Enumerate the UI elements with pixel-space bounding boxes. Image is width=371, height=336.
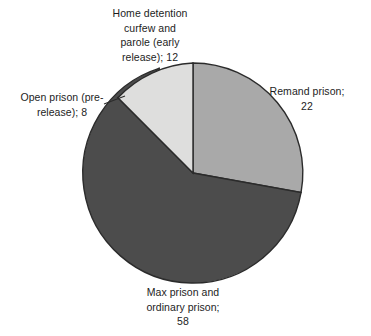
pie-slice-remand[interactable]: [193, 63, 303, 192]
pie-label-max-prison: Max prison and ordinary prison; 58: [114, 285, 252, 329]
pie-label-open-prison: Open prison (pre- release); 8: [6, 90, 118, 119]
pie-chart: Home detention curfew and parole (early …: [0, 0, 371, 336]
pie-label-home-detention: Home detention curfew and parole (early …: [94, 6, 206, 64]
pie-label-remand: Remand prison; 22: [249, 84, 365, 113]
